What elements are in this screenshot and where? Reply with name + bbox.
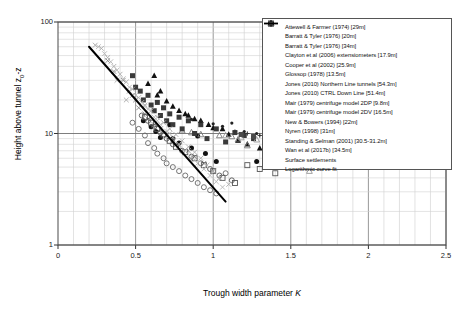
x-tick-label: 0.5: [124, 251, 148, 260]
data-point: [201, 185, 206, 190]
legend-item: Glossop (1978) [13.5m]: [263, 70, 451, 80]
legend-item: New & Bowers (1994) [22m]: [263, 117, 451, 127]
legend-item-label: Jones (2010) CTRL Down Line [51.4m]: [285, 90, 385, 96]
chart-legend: Attewell & Farmer (1974) [29m]Barratt & …: [262, 18, 452, 170]
data-point: [146, 93, 151, 98]
legend-item-label: Attewell & Farmer (1974) [29m]: [285, 24, 365, 30]
data-point: [136, 95, 141, 100]
data-point: [204, 136, 209, 141]
legend-item: Attewell & Farmer (1974) [29m]: [263, 22, 451, 32]
data-point: [145, 80, 151, 86]
x-axis-label-symbol: K: [295, 288, 301, 298]
data-point: [192, 131, 197, 136]
data-point: [214, 179, 219, 184]
data-point: [167, 111, 172, 116]
x-tick-label: 1: [201, 251, 225, 260]
data-point: [155, 100, 160, 105]
legend-item: Clayton et al (2006) extensiometers [17.…: [263, 51, 451, 61]
legend-item-label: Cooper et al (2002) [25.9m]: [285, 62, 356, 68]
x-tick-label: 1.5: [279, 251, 303, 260]
legend-item-label: New & Bowers (1994) [22m]: [285, 119, 357, 125]
data-point: [161, 105, 166, 110]
x-axis-label: Trough width parameter K: [58, 288, 446, 298]
data-point: [170, 122, 175, 127]
legend-item-label: Clayton et al (2006) extensiometers [17.…: [285, 52, 397, 58]
y-axis-label-suffix: -z: [13, 67, 23, 74]
data-point: [212, 122, 215, 125]
data-point: [199, 120, 202, 123]
x-tick-label: 0: [46, 251, 70, 260]
data-point: [130, 73, 135, 78]
legend-item: Wan et al (2017b) [34.5m]: [263, 146, 451, 156]
data-point: [208, 173, 213, 178]
data-point: [177, 169, 182, 174]
data-point: [223, 139, 228, 144]
legend-item: Barratt & Tyler (1976) [20m]: [263, 32, 451, 42]
x-axis-label-text: Trough width parameter: [203, 288, 295, 298]
data-point: [220, 185, 225, 190]
x-tick-label: 2.5: [434, 251, 457, 260]
legend-item: Nyren (1998) [31m]: [263, 127, 451, 137]
legend-item: Mair (1979) centrifuge model 2DV [16.5m]: [263, 108, 451, 118]
y-axis-label: Height above tunnel z0-z: [13, 59, 25, 169]
data-point: [176, 108, 182, 114]
legend-item: Standing & Selman (2001) [30.5-31.2m]: [263, 136, 451, 146]
data-point: [251, 134, 256, 139]
data-point: [180, 126, 185, 131]
data-point: [190, 118, 193, 121]
data-point: [170, 103, 176, 109]
data-point: [221, 125, 224, 128]
data-point: [183, 173, 188, 178]
y-axis-label-text: Height above tunnel z: [13, 78, 23, 160]
data-point: [203, 151, 208, 156]
x-tick-label: 2: [356, 251, 380, 260]
data-point: [254, 159, 259, 164]
y-tick-label: 100: [30, 17, 53, 26]
legend-item-label: Standing & Selman (2001) [30.5-31.2m]: [285, 138, 387, 144]
legend-item-label: Surface settlements: [285, 157, 336, 163]
legend-item: Cooper et al (2002) [25.9m]: [263, 60, 451, 70]
y-tick-label: 1: [30, 240, 53, 249]
data-point: [155, 151, 160, 156]
data-point: [146, 141, 151, 146]
legend-item-label: Mair (1979) centrifuge model 2DP [9.8m]: [285, 100, 389, 106]
data-point: [189, 177, 194, 182]
data-point: [149, 103, 154, 108]
legend-item: Jones (2010) Northern Line tunnels [54.3…: [263, 79, 451, 89]
legend-item: Barratt & Tyler (1976) [34m]: [263, 41, 451, 51]
data-point: [138, 89, 143, 94]
data-point: [214, 159, 219, 164]
data-point: [151, 72, 157, 78]
legend-item: Jones (2010) CTRL Down Line [51.4m]: [263, 89, 451, 99]
data-point: [230, 121, 233, 124]
data-point: [214, 126, 219, 131]
data-point: [130, 120, 135, 125]
legend-item-label: Barratt & Tyler (1976) [34m]: [285, 43, 356, 49]
data-point: [177, 115, 182, 120]
legend-item-label: Wan et al (2017b) [34.5m]: [285, 147, 352, 153]
legend-item-label: Nyren (1998) [31m]: [285, 128, 335, 134]
chart-figure: 00.511.522.5 110100 Height above tunnel …: [0, 0, 457, 309]
legend-item-label: Barratt & Tyler (1976) [20m]: [285, 33, 356, 39]
data-point: [158, 135, 163, 140]
data-point: [239, 132, 244, 137]
legend-item: Surface settlements: [263, 155, 451, 165]
legend-item: Mair (1979) centrifuge model 2DP [9.8m]: [263, 98, 451, 108]
data-point: [158, 88, 164, 94]
legend-item: Logarithmic curve fit: [263, 165, 451, 175]
legend-item-label: Logarithmic curve fit: [285, 166, 337, 172]
y-tick-label: 10: [30, 129, 53, 138]
legend-item-label: Glossop (1978) [13.5m]: [285, 71, 345, 77]
data-point: [164, 98, 170, 104]
data-point: [136, 126, 141, 131]
data-point: [167, 126, 172, 131]
y-axis-label-subscript: 0: [18, 75, 25, 78]
data-point: [206, 121, 212, 127]
legend-item-label: Mair (1979) centrifuge model 2DV [16.5m]: [285, 109, 393, 115]
logarithmic-curve-fit-line: [89, 47, 226, 202]
legend-item-label: Jones (2010) Northern Line tunnels [54.3…: [285, 81, 397, 87]
data-point: [152, 146, 157, 151]
data-point: [182, 111, 188, 117]
